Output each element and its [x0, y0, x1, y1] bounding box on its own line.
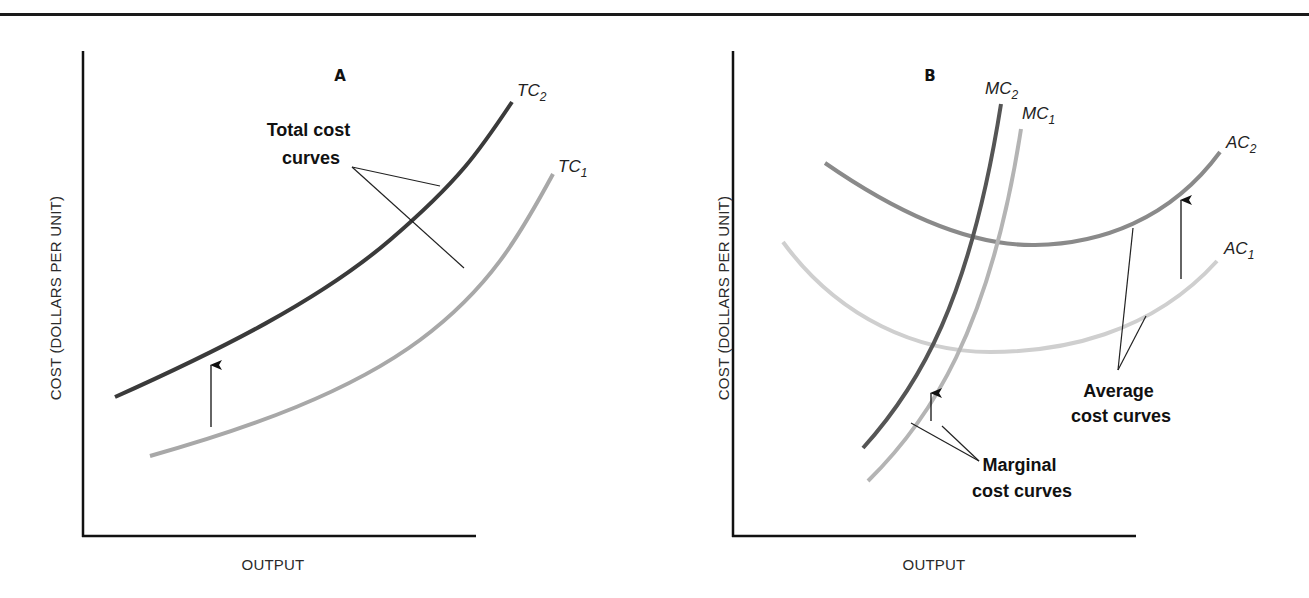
ac1-label: AC1	[1223, 239, 1254, 262]
ac1-curve	[783, 242, 1217, 352]
mc2-curve	[863, 104, 1001, 448]
total-cost-leader-tc1	[352, 167, 464, 268]
total-cost-annotation: Total cost curves	[267, 120, 356, 168]
ac2-curve	[825, 152, 1220, 245]
tc2-label: TC2	[517, 81, 547, 104]
panel-b-y-axis-title: COST (DOLLARS PER UNIT)	[715, 196, 732, 400]
marginal-cost-annotation: Marginal cost curves	[972, 455, 1072, 501]
panel-b-x-axis-title: OUTPUT	[903, 556, 966, 573]
tc2-curve	[115, 102, 512, 397]
panel-a-x-axis-title: OUTPUT	[242, 556, 305, 573]
panel-a: COST (DOLLARS PER UNIT) OUTPUT A TC2 TC1…	[47, 51, 587, 573]
average-cost-annotation: Average cost curves	[1071, 381, 1171, 426]
panel-b: COST (DOLLARS PER UNIT) OUTPUT B MC2 MC1…	[715, 51, 1257, 573]
cost-curves-figure: COST (DOLLARS PER UNIT) OUTPUT A TC2 TC1…	[0, 0, 1309, 598]
ac2-label: AC2	[1225, 133, 1257, 156]
mc1-label: MC1	[1022, 104, 1055, 127]
panel-a-y-axis-title: COST (DOLLARS PER UNIT)	[47, 196, 64, 400]
panel-a-letter: A	[334, 67, 346, 85]
average-cost-leader-ac2	[1118, 228, 1133, 370]
total-cost-leader-tc2	[352, 167, 440, 186]
mc2-label: MC2	[985, 79, 1018, 102]
panel-b-letter: B	[924, 67, 935, 85]
figure-canvas: COST (DOLLARS PER UNIT) OUTPUT A TC2 TC1…	[0, 0, 1309, 598]
tc1-label: TC1	[558, 157, 587, 180]
